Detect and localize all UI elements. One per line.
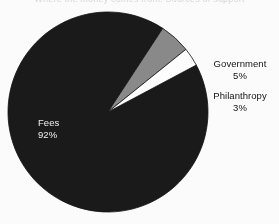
slice-label-government-name: Government: [214, 58, 267, 69]
slice-label-government: Government 5%: [201, 58, 279, 81]
slice-label-fees-percent: 92%: [38, 129, 59, 141]
slice-label-philanthropy: Philanthropy 3%: [201, 90, 279, 113]
slice-label-philanthropy-name: Philanthropy: [213, 90, 266, 101]
pie-chart-figure: Where the money comes from: Sources of s…: [0, 0, 279, 224]
slice-label-fees-name: Fees: [38, 117, 59, 128]
slice-label-government-percent: 5%: [201, 70, 279, 82]
slice-label-philanthropy-percent: 3%: [201, 102, 279, 114]
slice-label-fees: Fees 92%: [38, 117, 59, 140]
